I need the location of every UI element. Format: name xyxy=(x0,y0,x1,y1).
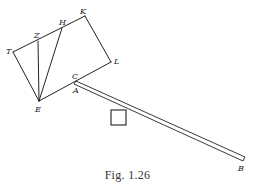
figure-diagram: T Z H K L C A E B xyxy=(0,0,255,194)
label-A: A xyxy=(72,86,79,95)
line-TK xyxy=(13,16,85,52)
label-T: T xyxy=(6,47,12,56)
label-E: E xyxy=(34,105,41,114)
label-K: K xyxy=(79,7,87,16)
label-H: H xyxy=(58,18,67,27)
label-C: C xyxy=(72,72,78,81)
label-L: L xyxy=(113,57,119,66)
label-Z: Z xyxy=(33,31,40,40)
line-TE xyxy=(13,52,39,101)
line-ZE xyxy=(38,41,39,101)
weight-box xyxy=(111,110,126,125)
rod-AB xyxy=(74,81,245,161)
figure-caption: Fig. 1.26 xyxy=(0,168,255,183)
line-KL xyxy=(85,16,111,62)
